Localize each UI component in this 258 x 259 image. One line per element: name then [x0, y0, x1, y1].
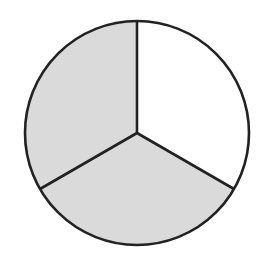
- pie-svg: [0, 0, 258, 259]
- fraction-circle-diagram: [0, 0, 258, 259]
